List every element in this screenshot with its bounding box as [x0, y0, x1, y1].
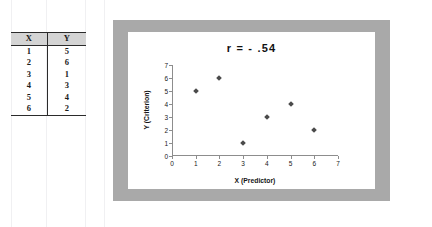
scatter-point [193, 88, 199, 94]
y-axis-tick [169, 130, 172, 131]
scatter-point [311, 127, 317, 133]
cell-x: 1 [11, 45, 47, 57]
cell-y: 5 [47, 45, 86, 57]
cell-y: 2 [47, 103, 86, 115]
x-axis-tick [219, 156, 220, 159]
x-axis-tick-label: 2 [218, 160, 222, 167]
table-row: 2 6 [11, 57, 86, 69]
y-axis-tick-label: 3 [164, 114, 168, 121]
y-axis-tick-label: 1 [164, 140, 168, 147]
y-axis-tick-label: 6 [164, 75, 168, 82]
x-axis-tick [267, 156, 268, 159]
x-axis-tick-label: 7 [336, 160, 340, 167]
y-axis-tick [169, 91, 172, 92]
table-row: 3 1 [11, 69, 86, 81]
table-row: 6 2 [11, 103, 86, 115]
column-header-x: X [11, 33, 47, 46]
x-axis-tick [243, 156, 244, 159]
y-axis-tick-label: 4 [164, 101, 168, 108]
y-axis-tick [169, 65, 172, 66]
y-axis-tick-label: 7 [164, 62, 168, 69]
y-axis-tick [169, 143, 172, 144]
table-row: 1 5 [11, 45, 86, 57]
y-axis-line [172, 65, 173, 156]
cell-y: 6 [47, 57, 86, 69]
table-row: 5 4 [11, 92, 86, 104]
table-row: 4 3 [11, 80, 86, 92]
cell-x: 2 [11, 57, 47, 69]
chart-title: r = - .54 [128, 42, 375, 54]
cell-x: 4 [11, 80, 47, 92]
page-guide-line [104, 0, 105, 227]
y-axis-tick-label: 2 [164, 127, 168, 134]
y-axis-tick-label: 5 [164, 88, 168, 95]
x-axis-tick-label: 1 [194, 160, 198, 167]
scatterplot-panel: r = - .54 Y (Criterion) X (Predictor) 01… [128, 32, 375, 189]
x-axis-tick-label: 4 [265, 160, 269, 167]
y-axis-tick [169, 78, 172, 79]
cell-y: 3 [47, 80, 86, 92]
table-header: X Y [11, 33, 86, 46]
x-axis-tick-label: 3 [241, 160, 245, 167]
x-axis-line [172, 155, 338, 156]
cell-x: 5 [11, 92, 47, 104]
x-axis-tick [338, 156, 339, 159]
cell-y: 1 [47, 69, 86, 81]
y-axis-tick [169, 104, 172, 105]
x-axis-tick [314, 156, 315, 159]
scatter-point [264, 114, 270, 120]
scatter-point [288, 101, 294, 107]
x-axis-tick-label: 0 [170, 160, 174, 167]
y-axis-tick [169, 117, 172, 118]
x-axis-tick [291, 156, 292, 159]
table-body: 1 5 2 6 3 1 4 3 5 4 6 2 [11, 45, 86, 115]
cell-x: 6 [11, 103, 47, 115]
y-axis-title: Y (Criterion) [143, 90, 150, 129]
x-axis-title: X (Predictor) [172, 177, 338, 184]
x-axis-tick-label: 6 [312, 160, 316, 167]
table-header-row: X Y [11, 33, 86, 46]
cell-y: 4 [47, 92, 86, 104]
y-axis-tick-label: 0 [164, 153, 168, 160]
plot-area: 0123456701234567 [172, 65, 338, 156]
chart-outer-frame: r = - .54 Y (Criterion) X (Predictor) 01… [113, 20, 390, 201]
data-table-container: X Y 1 5 2 6 3 1 4 3 5 4 [11, 32, 86, 116]
x-axis-tick [172, 156, 173, 159]
column-header-y: Y [47, 33, 86, 46]
x-axis-tick [196, 156, 197, 159]
cell-x: 3 [11, 69, 47, 81]
xy-data-table: X Y 1 5 2 6 3 1 4 3 5 4 [11, 32, 86, 116]
scatter-point [240, 140, 246, 146]
scatter-point [217, 75, 223, 81]
x-axis-tick-label: 5 [289, 160, 293, 167]
